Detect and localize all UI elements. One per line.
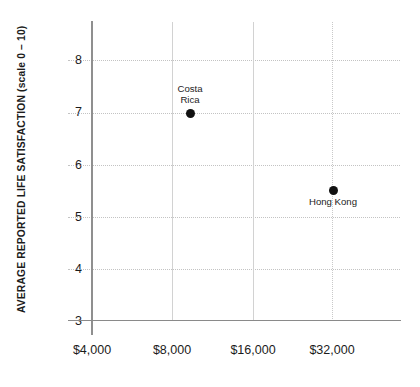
data-point-label-hong-kong: Hong Kong (273, 196, 393, 207)
gridline-vertical (172, 22, 173, 321)
gridline-horizontal (68, 269, 400, 270)
data-point-hong-kong[interactable] (329, 186, 338, 195)
gridline-horizontal (68, 113, 400, 114)
gridline-vertical (253, 22, 254, 321)
gridline-horizontal (68, 60, 400, 61)
gridline-horizontal (68, 217, 400, 218)
x-axis-tick-labels: $4,000 $8,000 $16,000 $32,000 (0, 343, 420, 361)
x-axis-line (68, 320, 401, 321)
data-point-label-costa-rica: Costa Rica (130, 83, 250, 105)
y-tick-label: 3 (56, 314, 82, 328)
gridline-vertical (332, 22, 333, 321)
data-point-costa-rica[interactable] (186, 109, 195, 118)
y-axis-line (91, 21, 93, 335)
plot-area: Costa Rica Hong Kong (92, 22, 400, 321)
y-tick-label: 7 (56, 105, 82, 119)
gridline-horizontal (68, 165, 400, 166)
scatter-chart: AVERAGE REPORTED LIFE SATISFACTION (scal… (0, 0, 420, 387)
y-axis-title: AVERAGE REPORTED LIFE SATISFACTION (scal… (11, 13, 33, 313)
x-tick-label: $32,000 (282, 343, 382, 357)
y-axis-tick-labels: 8 7 6 5 4 3 (40, 0, 82, 387)
